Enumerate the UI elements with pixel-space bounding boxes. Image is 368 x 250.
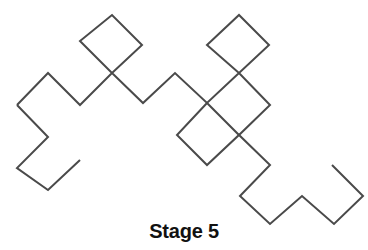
fractal-curve-drawing xyxy=(0,0,368,250)
stage-caption-label: Stage 5 xyxy=(0,218,368,244)
figure-background xyxy=(0,0,368,250)
fractal-figure: Stage 5 xyxy=(0,0,368,250)
